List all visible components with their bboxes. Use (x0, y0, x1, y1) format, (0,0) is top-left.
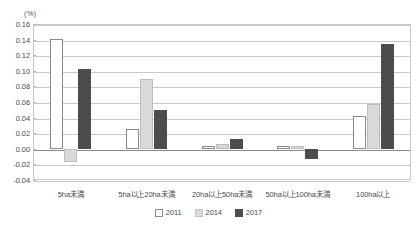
bar-2011-5 (353, 116, 366, 149)
bar-group (353, 24, 394, 180)
bar-2017-1 (78, 69, 91, 149)
y-axis-unit-label: (%) (24, 9, 36, 18)
bar-2011-3 (202, 146, 215, 149)
y-axis-tick-label: 0.16 (16, 20, 30, 29)
y-axis-tick-label: 0.08 (16, 82, 30, 91)
bar-2017-3 (230, 139, 243, 148)
y-axis-tick-mark (33, 55, 36, 56)
y-axis-tick-label: 0.04 (16, 113, 30, 122)
legend-item-2011[interactable]: 2011 (155, 208, 182, 217)
y-axis-tick-label: 0.02 (16, 129, 30, 138)
bar-2011-4 (277, 146, 290, 149)
y-axis-tick-mark (33, 71, 36, 72)
legend-swatch-icon (195, 209, 203, 217)
bar-2011-2 (126, 129, 139, 149)
bar-group (202, 24, 243, 180)
y-axis-tick-mark (33, 86, 36, 87)
bar-2011-1 (50, 39, 63, 149)
y-axis-tick-mark (33, 133, 36, 134)
x-axis-category-label: 100ha以上 (356, 188, 390, 199)
x-axis-category-label: 50ha以上100ha未満 (265, 188, 329, 199)
bars-layer (33, 24, 411, 180)
bar-chart: (%) 0.160.140.120.100.080.060.040.020.00… (0, 0, 417, 230)
chart-legend: 201120142017 (0, 208, 417, 217)
gridline (34, 181, 410, 182)
bar-group (50, 24, 91, 180)
legend-swatch-icon (155, 209, 163, 217)
bar-2017-2 (154, 110, 167, 149)
y-axis-tick-mark (33, 24, 36, 25)
y-axis-tick-label: 0.14 (16, 35, 30, 44)
legend-label: 2014 (206, 208, 222, 217)
y-axis-tick-mark (33, 118, 36, 119)
y-axis-tick-mark (33, 164, 36, 165)
bar-2014-2 (140, 79, 153, 148)
bar-group (126, 24, 167, 180)
bar-2014-1 (64, 149, 77, 162)
legend-swatch-icon (235, 209, 243, 217)
bar-2017-4 (305, 149, 318, 159)
legend-item-2017[interactable]: 2017 (235, 208, 262, 217)
y-axis-tick-label: 0.06 (16, 98, 30, 107)
x-axis-category-label: 5ha未満 (58, 188, 84, 199)
y-axis-tick-labels: 0.160.140.120.100.080.060.040.020.00-0.0… (0, 24, 33, 180)
y-axis-tick-label: 0.00 (16, 144, 30, 153)
y-axis-tick-mark (33, 149, 36, 150)
y-axis-tick-mark (33, 40, 36, 41)
x-axis-category-labels: 5ha未満5ha以上20ha未満20ha以上50ha未満50ha以上100ha未… (33, 188, 411, 202)
bar-2014-3 (216, 144, 229, 149)
y-axis-tick-label: -0.02 (13, 160, 30, 169)
y-axis-tick-mark (33, 180, 36, 181)
x-axis-category-label: 20ha以上50ha未満 (192, 188, 252, 199)
legend-item-2014[interactable]: 2014 (195, 208, 222, 217)
legend-label: 2017 (246, 208, 262, 217)
y-axis-tick-label: 0.10 (16, 66, 30, 75)
legend-label: 2011 (166, 208, 182, 217)
bar-2014-5 (367, 104, 380, 149)
y-axis-tick-label: -0.04 (13, 176, 30, 185)
bar-2017-5 (381, 44, 394, 149)
x-axis-category-label: 5ha以上20ha未満 (118, 188, 174, 199)
y-axis-tick-mark (33, 102, 36, 103)
y-axis-tick-label: 0.12 (16, 51, 30, 60)
bar-2014-4 (291, 146, 304, 149)
bar-group (277, 24, 318, 180)
